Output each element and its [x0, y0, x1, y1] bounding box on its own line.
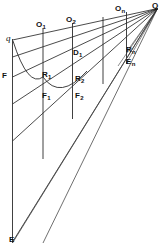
label-R2-text: R: [75, 74, 81, 83]
label-E: E: [9, 236, 14, 244]
label-O2-sub: 2: [73, 19, 76, 25]
label-O2-text: O: [66, 15, 72, 24]
label-O1-text: O: [36, 20, 42, 29]
label-On-text: O: [115, 4, 121, 13]
label-O1-sub: 1: [43, 24, 46, 30]
label-F1: F1: [42, 92, 50, 100]
cross-ray-from-o1: [43, 9, 158, 244]
label-q-text: q: [6, 33, 11, 43]
label-O2: O2: [66, 16, 76, 24]
label-Rn-sub: n: [132, 49, 136, 55]
label-D1: D1: [73, 49, 82, 57]
label-Q: Q: [152, 2, 158, 10]
ray-apex-to-q: [13, 9, 158, 41]
label-R2: R2: [75, 75, 84, 83]
cross-ray-from-e: [13, 9, 158, 244]
vertical-ordinate-group: [13, 12, 127, 243]
label-E-text: E: [9, 235, 14, 244]
label-En: En: [126, 58, 135, 66]
label-On: On: [115, 5, 125, 13]
label-On-sub: n: [122, 8, 126, 14]
label-F: F: [2, 72, 7, 80]
ray-apex-to-f: [13, 9, 158, 105]
label-R2-sub: 2: [81, 78, 84, 84]
label-Rn-text: R: [126, 45, 132, 54]
label-q: q: [6, 34, 11, 43]
label-R1-sub: 1: [48, 74, 51, 80]
label-D1-text: D: [73, 48, 79, 57]
label-En-sub: n: [132, 61, 136, 67]
label-D1-sub: 1: [79, 52, 82, 58]
label-Rn: Rn: [126, 46, 135, 54]
figure-container: q O1 O2 On Q D1 Rn En F R1 R2 F1 F2 E: [0, 0, 164, 249]
label-En-text: E: [126, 57, 131, 66]
label-R1: R1: [42, 71, 51, 79]
label-R1-text: R: [42, 70, 48, 79]
label-F2-sub: 2: [80, 95, 83, 101]
apex-cluster: [118, 9, 158, 67]
label-Q-text: Q: [152, 1, 158, 10]
cross-ray-group: [13, 9, 158, 244]
apex-fan-3: [118, 9, 158, 67]
label-O1: O1: [36, 21, 46, 29]
ray-apex-to-g: [13, 9, 158, 142]
label-F2: F2: [75, 92, 83, 100]
label-F-text: F: [2, 71, 7, 80]
label-F1-sub: 1: [47, 95, 50, 101]
catenary-arc-1: [13, 41, 43, 79]
geometry-diagram: [0, 0, 164, 249]
